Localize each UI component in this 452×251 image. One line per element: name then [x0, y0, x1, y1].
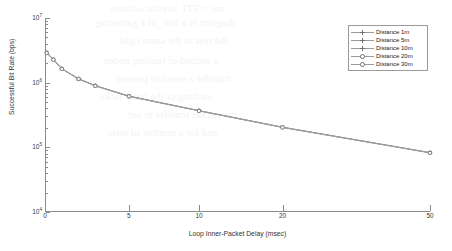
- series-marker: [281, 126, 284, 129]
- legend-line-sample: [351, 44, 374, 52]
- x-axis-title: Loop Inner-Packet Delay (msec): [45, 230, 430, 237]
- y-axis-title: Successful Bit Rate (bps): [8, 39, 15, 115]
- legend-label: Distance 20m: [374, 53, 413, 59]
- series-marker: [45, 51, 48, 54]
- y-tick-label: 105: [32, 144, 42, 152]
- x-tick-label: 50: [426, 213, 433, 220]
- x-tick-label: 20: [279, 213, 286, 220]
- legend-label: Distance 30m: [374, 61, 413, 67]
- x-tick-label: 0: [43, 213, 47, 220]
- series-marker: [127, 95, 130, 98]
- legend-label: Distance 10m: [374, 45, 413, 51]
- legend-marker-icon: [360, 46, 365, 51]
- legend-marker-icon: [360, 54, 365, 59]
- series-marker: [52, 58, 55, 61]
- legend-entry[interactable]: Distance 10m: [351, 44, 425, 52]
- legend-line-sample: [351, 60, 374, 68]
- legend-line-sample: [351, 52, 374, 60]
- marker-circ-icon: [360, 62, 365, 67]
- series-marker: [60, 67, 63, 70]
- legend-label: Distance 5m: [374, 37, 409, 43]
- chart-legend[interactable]: Distance 1mDistance 5mDistance 10mDistan…: [348, 25, 428, 71]
- marker-dot-icon: [360, 54, 365, 59]
- marker-plus-icon: [360, 38, 365, 43]
- legend-marker-icon: [360, 62, 365, 67]
- legend-label: Distance 1m: [374, 29, 409, 35]
- y-tick-label: 106: [32, 79, 42, 87]
- series-marker: [428, 151, 431, 154]
- legend-entry[interactable]: Distance 20m: [351, 52, 425, 60]
- legend-line-sample: [351, 28, 374, 36]
- marker-cross-icon: [360, 30, 365, 35]
- legend-marker-icon: [360, 38, 365, 43]
- legend-marker-icon: [360, 30, 365, 35]
- y-tick-label: 104: [32, 208, 42, 216]
- series-marker: [77, 77, 80, 80]
- chart-figure: 104105106107 05102050 Loop Inner-Packet …: [0, 0, 452, 251]
- series-marker: [197, 109, 200, 112]
- y-tick-label: 107: [32, 14, 42, 22]
- x-tick-label: 5: [127, 213, 131, 220]
- x-tick: [430, 205, 431, 211]
- marker-star-icon: [360, 46, 365, 51]
- legend-entry[interactable]: Distance 30m: [351, 60, 425, 68]
- legend-entry[interactable]: Distance 5m: [351, 36, 425, 44]
- legend-line-sample: [351, 36, 374, 44]
- x-tick-label: 10: [195, 213, 202, 220]
- legend-entry[interactable]: Distance 1m: [351, 28, 425, 36]
- series-marker: [94, 84, 97, 87]
